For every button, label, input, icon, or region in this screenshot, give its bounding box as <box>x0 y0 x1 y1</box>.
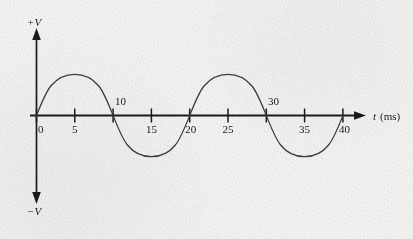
y-axis-arrowhead-up <box>32 28 41 40</box>
tick-label-30: 30 <box>268 95 280 107</box>
tick-label-40: 40 <box>339 123 351 135</box>
x-axis-label-group: t (ms) <box>373 110 401 123</box>
figure-container: +V −V t (ms) 0 5 10 15 20 25 30 35 40 <box>0 0 413 239</box>
y-axis-arrowhead-down <box>32 192 41 204</box>
tick-label-10: 10 <box>115 95 127 107</box>
sine-wave-plot: +V −V t (ms) 0 5 10 15 20 25 30 35 40 <box>0 0 413 239</box>
tick-label-15: 15 <box>146 123 158 135</box>
tick-label-25: 25 <box>223 123 235 135</box>
tick-label-0: 0 <box>38 123 44 135</box>
tick-label-20: 20 <box>185 123 197 135</box>
x-axis-arrowhead-right <box>354 111 366 119</box>
x-axis-group <box>30 111 366 119</box>
x-axis-unit-label: (ms) <box>380 110 401 123</box>
x-axis-variable-label: t <box>373 110 377 122</box>
tick-label-5: 5 <box>72 123 78 135</box>
y-axis-positive-label: +V <box>27 16 42 28</box>
tick-label-35: 35 <box>299 123 311 135</box>
y-axis-negative-label: −V <box>27 205 42 217</box>
